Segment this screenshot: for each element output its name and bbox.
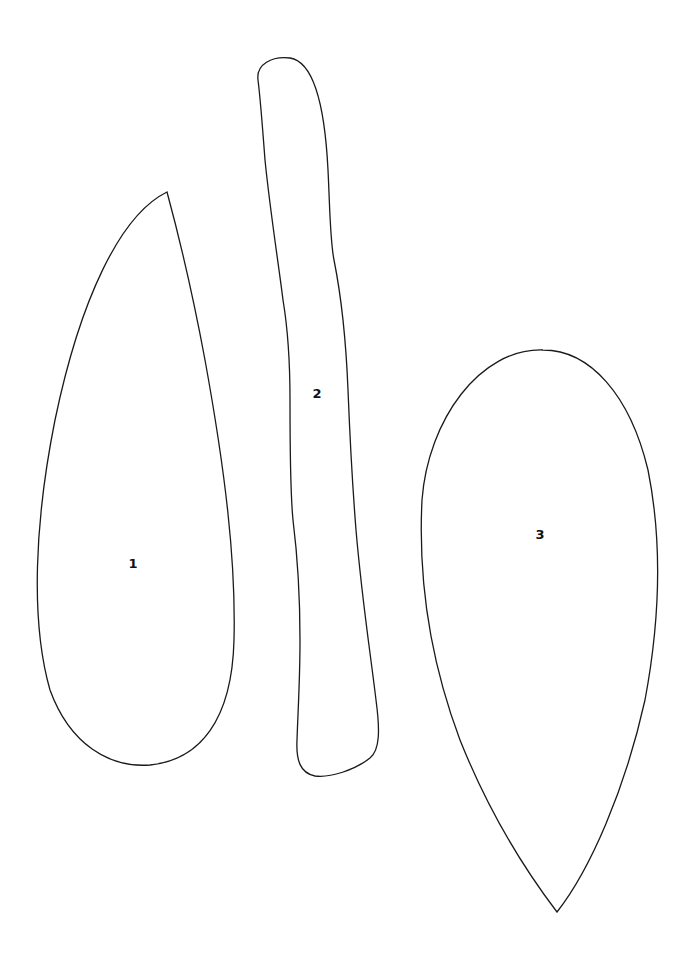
shape-3-label: 3 <box>535 528 544 541</box>
shape-1-outline <box>37 192 234 765</box>
shape-1-label: 1 <box>128 557 137 570</box>
shape-2-label: 2 <box>312 387 321 400</box>
diagram-canvas <box>0 0 690 972</box>
shape-3-outline <box>421 350 657 912</box>
shape-2-outline <box>258 58 379 777</box>
